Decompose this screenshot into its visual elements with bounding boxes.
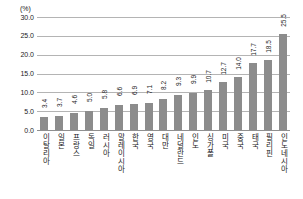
x-axis-label: 인도 [189, 133, 198, 149]
bar[interactable] [100, 108, 108, 130]
gridline [37, 130, 290, 131]
bar[interactable] [85, 111, 93, 130]
x-axis-category-labels: 이탈리아일본프랑스독일러시아말레이시아한국영국대만네덜란드인도싱가폴미국중국태국… [37, 133, 290, 197]
bar-value-label: 6.6 [115, 81, 122, 103]
bar-value-label: 9.3 [175, 70, 182, 92]
x-axis-label: 러시아 [100, 133, 109, 157]
x-axis-label-slot: 미국 [216, 133, 230, 149]
bar-slot: 6.9 [126, 17, 141, 130]
y-axis-tick-label: 30.0 [0, 14, 34, 21]
x-axis-label-slot: 싱가폴 [201, 133, 215, 157]
y-axis-tick-label: 25.0 [0, 32, 34, 39]
bar-value-label: 3.7 [56, 92, 63, 114]
bar-slot: 4.6 [67, 17, 82, 130]
y-axis-tick-label: 0.0 [0, 127, 34, 134]
bar-value-label: 4.6 [71, 88, 78, 110]
bar-slot: 8.2 [156, 17, 171, 130]
bar[interactable] [249, 63, 257, 130]
bar[interactable] [145, 103, 153, 130]
x-axis-label: 프랑스 [70, 133, 79, 157]
bar-value-label: 7.1 [145, 79, 152, 101]
x-axis-label-slot: 독일 [82, 133, 96, 149]
bar[interactable] [130, 104, 138, 130]
bar-slot: 5.8 [97, 17, 112, 130]
x-axis-label: 독일 [85, 133, 94, 149]
x-axis-label-slot: 태국 [246, 133, 260, 149]
bar-value-label: 17.7 [249, 39, 256, 61]
bar[interactable] [70, 113, 78, 130]
bar-value-label: 6.9 [130, 80, 137, 102]
x-axis-label-slot: 러시아 [97, 133, 111, 157]
bar-slot: 3.7 [52, 17, 67, 130]
bar[interactable] [234, 77, 242, 130]
x-axis-label-slot: 영국 [142, 133, 156, 149]
bar-chart: (%) 30.025.020.015.010.05.00.0 3.43.74.6… [0, 0, 303, 199]
bar-value-label: 10.7 [205, 65, 212, 87]
y-axis-unit-label: (%) [20, 4, 31, 13]
x-axis-label-slot: 프랑스 [67, 133, 81, 157]
bar-slot: 10.7 [201, 17, 216, 130]
bar-slot: 7.1 [141, 17, 156, 130]
bar-slot: 14.0 [230, 17, 245, 130]
x-axis-label: 대만 [159, 133, 168, 149]
bar[interactable] [264, 60, 272, 130]
bar[interactable] [204, 90, 212, 130]
bar-slot: 25.5 [275, 17, 290, 130]
x-axis-label-slot: 일본 [52, 133, 66, 149]
bar-slot: 5.0 [82, 17, 97, 130]
bar[interactable] [174, 95, 182, 130]
y-axis-tick-label: 20.0 [0, 51, 34, 58]
bar-slot: 12.7 [216, 17, 231, 130]
x-axis-label-slot: 인도 [186, 133, 200, 149]
y-axis-tick-label: 15.0 [0, 70, 34, 77]
x-axis-label-slot: 중국 [231, 133, 245, 149]
bar[interactable] [55, 116, 63, 130]
x-axis-label: 싱가폴 [204, 133, 213, 157]
bar-slot: 9.9 [186, 17, 201, 130]
bar-slot: 9.3 [171, 17, 186, 130]
bar-series: 3.43.74.65.05.86.66.97.18.29.39.910.712.… [37, 17, 290, 130]
bar[interactable] [159, 99, 167, 130]
bar[interactable] [115, 105, 123, 130]
x-axis-label: 태국 [249, 133, 258, 149]
x-axis-label-slot: 인도네시아 [276, 133, 290, 173]
x-axis-label: 인도네시아 [278, 133, 287, 173]
x-axis-label-slot: 대만 [157, 133, 171, 149]
bar-slot: 6.6 [111, 17, 126, 130]
bar-value-label: 18.5 [264, 36, 271, 58]
bar-value-label: 8.2 [160, 75, 167, 97]
bar-value-label: 14.0 [234, 53, 241, 75]
x-axis-label-slot: 이탈리아 [37, 133, 51, 165]
x-axis-label: 일본 [55, 133, 64, 149]
x-axis-label: 영국 [144, 133, 153, 149]
x-axis-label: 필리핀 [263, 133, 272, 157]
bar-slot: 17.7 [245, 17, 260, 130]
x-axis-label: 이탈리아 [40, 133, 49, 165]
bar[interactable] [279, 34, 287, 130]
x-axis-label-slot: 한국 [127, 133, 141, 149]
bar-slot: 3.4 [37, 17, 52, 130]
y-axis-tick-label: 10.0 [0, 89, 34, 96]
bar-value-label: 5.8 [100, 84, 107, 106]
x-axis-label: 중국 [234, 133, 243, 149]
bar-slot: 18.5 [260, 17, 275, 130]
x-axis-label: 네덜란드 [174, 133, 183, 165]
bar-value-label: 5.0 [86, 87, 93, 109]
bar[interactable] [189, 93, 197, 130]
x-axis-label: 미국 [219, 133, 228, 149]
bar-value-label: 3.4 [41, 93, 48, 115]
bar-value-label: 9.9 [190, 68, 197, 90]
x-axis-label-slot: 네덜란드 [171, 133, 185, 165]
bar-value-label: 12.7 [220, 58, 227, 80]
x-axis-label-slot: 말레이시아 [112, 133, 126, 173]
x-axis-label: 말레이시아 [115, 133, 124, 173]
bar[interactable] [40, 117, 48, 130]
x-axis-label-slot: 필리핀 [261, 133, 275, 157]
x-axis-label: 한국 [129, 133, 138, 149]
bar[interactable] [219, 82, 227, 130]
y-axis-tick-label: 5.0 [0, 108, 34, 115]
bar-value-label: 25.5 [279, 9, 286, 31]
